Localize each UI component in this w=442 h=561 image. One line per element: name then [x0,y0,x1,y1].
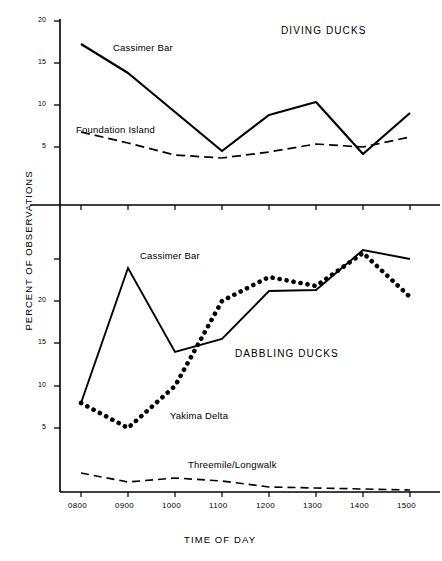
x-axis-title: TIME OF DAY [184,534,256,545]
top-ytick-label-10: 10 [38,100,46,107]
top-series-foundation-island [81,132,410,158]
bottom-series-threemile-longwalk [81,473,410,490]
top-ytick-label-5: 5 [42,142,46,149]
bottom-series-yakima-delta [81,253,410,428]
xtick-label-0900: 0900 [115,501,134,510]
bottom-ytick-label-20: 20 [38,296,46,303]
bottom-ytick-label-15: 15 [38,338,46,345]
top-panel-title: DIVING DUCKS [281,25,366,36]
bottom-panel-title: DABBLING DUCKS [235,348,339,359]
bottom-series-cassimer-bar [81,250,410,403]
bottom-ytick-label-5: 5 [42,423,46,430]
xtick-label-1500: 1500 [397,501,416,510]
bottom-ytick-label-10: 10 [38,381,46,388]
bottom-label-yakima-delta: Yakima Delta [170,410,228,421]
xtick-label-1000: 1000 [162,501,181,510]
chart-canvas [0,0,442,561]
xtick-label-1100: 1100 [209,501,227,510]
xtick-label-1400: 1400 [350,501,369,510]
xtick-label-1200: 1200 [256,501,275,510]
xtick-label-1300: 1300 [303,501,322,510]
top-label-cassimer-bar: Cassimer Bar [113,42,173,53]
duck-observation-figure: 20 15 10 5 20 15 10 5 0800 0900 1000 110… [0,0,442,561]
xtick-label-0800: 0800 [68,501,87,510]
top-ytick-label-20: 20 [38,16,46,23]
top-series-cassimer-bar [81,44,410,154]
bottom-label-threemile-longwalk: Threemile/Longwalk [188,459,277,470]
y-axis-title: PERCENT OF OBSERVATIONS [23,166,34,336]
bottom-label-cassimer-bar: Cassimer Bar [140,250,200,261]
top-label-foundation-island: Foundation Island [76,124,155,135]
top-ytick-label-15: 15 [38,58,46,65]
